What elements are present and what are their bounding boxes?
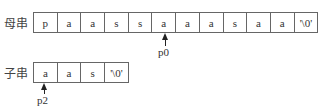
main-cell: s [224, 13, 248, 32]
main-cell: s [129, 13, 153, 32]
main-cell: a [152, 13, 176, 32]
main-cell: '\0' [295, 13, 319, 32]
sub-cell: '\0' [105, 63, 129, 82]
main-cell: a [271, 13, 295, 32]
main-cell: p [34, 13, 58, 32]
main-string-array: p a a s s a a a s a a '\0' [33, 12, 318, 33]
main-cell: a [58, 13, 82, 32]
sub-cell: s [81, 63, 105, 82]
main-cell: a [247, 13, 271, 32]
p0-arrow-shaft [165, 38, 166, 46]
sub-string-array: a a s '\0' [33, 62, 129, 83]
main-string-label: 母串 [4, 14, 28, 31]
sub-cell: a [34, 63, 58, 82]
p2-pointer-label: p2 [37, 94, 48, 106]
main-cell: a [81, 13, 105, 32]
p0-pointer-label: p0 [158, 46, 169, 58]
main-cell: a [200, 13, 224, 32]
sub-cell: a [58, 63, 82, 82]
sub-string-label: 子串 [4, 64, 28, 81]
main-cell: s [105, 13, 129, 32]
main-cell: a [176, 13, 200, 32]
